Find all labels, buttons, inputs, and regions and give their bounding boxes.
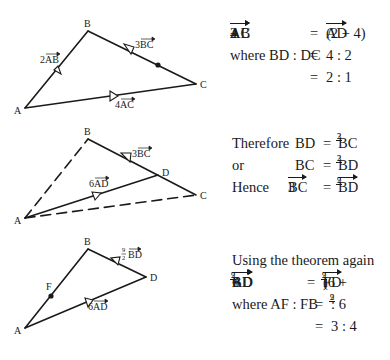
vector-fd: FD <box>323 271 342 293</box>
svg-text:9: 9 <box>122 246 125 253</box>
svg-text:2: 2 <box>122 254 125 261</box>
panel-3: B A D F 9 2 BD 6AD Using the theorem aga… <box>0 0 390 360</box>
label-f: F <box>46 281 52 292</box>
vector-label-9-2-bd: 9 2 BD <box>122 246 142 261</box>
side-ad <box>25 277 146 328</box>
triangle-diagram-abd-2: B A D F 9 2 BD 6AD <box>0 0 230 360</box>
vector-bd: BD <box>232 271 252 293</box>
svg-text:BD: BD <box>128 249 142 260</box>
label-b: B <box>84 236 91 247</box>
label-a: A <box>14 325 22 336</box>
side-ab <box>25 249 88 328</box>
vector-label-6ad: 6AD <box>88 301 107 312</box>
point-f-dot-icon <box>48 293 53 298</box>
label-d: D <box>150 272 157 283</box>
